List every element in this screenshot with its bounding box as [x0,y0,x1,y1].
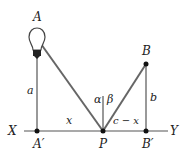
label-p: P [98,137,108,151]
label-b: B [141,44,151,58]
reflection-diagram: A B X Y A′ P B′ a b x c − x α β [0,0,186,154]
light-bulb-icon [29,28,45,59]
label-a: A [32,10,42,24]
label-a-prime: A′ [32,137,45,151]
point-a-prime-dot [35,129,40,134]
label-b-prime: B′ [141,137,154,151]
label-angle-alpha: α [94,93,102,106]
label-x-axis: X [7,124,17,138]
label-y-axis: Y [170,124,179,138]
label-segment-x: x [66,114,73,127]
label-segment-c-minus-x: c − x [113,115,139,126]
point-p-dot [101,129,106,134]
point-b-dot [144,62,149,67]
point-b-prime-dot [144,129,149,134]
label-segment-a: a [27,84,34,97]
label-angle-beta: β [106,93,113,106]
label-segment-b: b [150,91,157,104]
